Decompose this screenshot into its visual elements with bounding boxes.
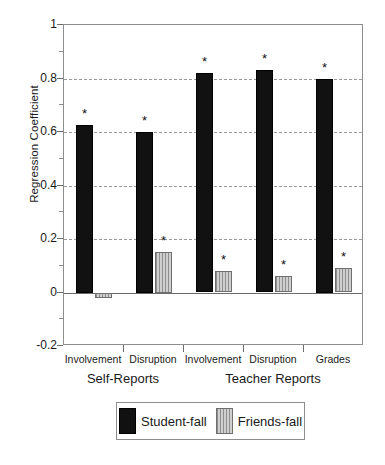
group-label-teacher-reports: Teacher Reports [225,371,320,386]
significance-star: * [341,250,346,263]
bar-friends-fall-1 [155,252,172,292]
bar-student-fall-2 [196,73,213,292]
x-tick-label-1: Disruption [129,353,176,365]
chart-legend: Student-fallFriends-fall [116,402,305,440]
y-tick-label: 1 [11,17,57,31]
y-tick-label: 0.6 [11,124,57,138]
x-tick-mark [123,345,124,352]
bar-friends-fall-0 [95,293,112,298]
y-tick-label: 0.2 [11,231,57,245]
legend-label: Student-fall [141,414,207,429]
significance-star: * [82,107,87,120]
y-tick-label: 0.8 [11,71,57,85]
bar-student-fall-3 [256,70,273,292]
legend-entry-friends-fall[interactable]: Friends-fall [216,408,302,434]
x-tick-label-4: Grades [316,353,350,365]
x-tick-mark [243,345,244,352]
x-tick-mark [183,345,184,352]
y-tick-label: 0.4 [11,178,57,192]
bar-student-fall-0 [76,125,93,292]
y-tick-label: -0.2 [11,338,57,352]
x-tick-label-2: Involvement [185,353,242,365]
significance-star: * [262,52,267,65]
regression-coefficient-bar-chart: Regression Coefficient 10.80.60.40.20-0.… [0,0,385,465]
legend-swatch-icon [216,408,233,434]
significance-star: * [161,234,166,247]
x-tick-mark [303,345,304,352]
significance-star: * [221,253,226,266]
bar-friends-fall-3 [275,276,292,292]
significance-star: * [281,258,286,271]
significance-star: * [142,114,147,127]
significance-star: * [322,61,327,74]
bar-student-fall-1 [136,132,153,293]
legend-entry-student-fall[interactable]: Student-fall [119,408,207,434]
bar-friends-fall-2 [215,271,232,292]
group-label-self-reports: Self-Reports [87,371,159,386]
significance-star: * [202,55,207,68]
x-tick-label-0: Involvement [65,353,122,365]
x-tick-label-3: Disruption [249,353,296,365]
legend-label: Friends-fall [238,414,302,429]
plot-area: ********* [63,24,363,345]
y-tick-label: 0 [11,285,57,299]
bar-friends-fall-4 [335,268,352,292]
bar-student-fall-4 [316,79,333,293]
legend-swatch-icon [119,408,136,434]
y-tick-mark [57,345,63,346]
